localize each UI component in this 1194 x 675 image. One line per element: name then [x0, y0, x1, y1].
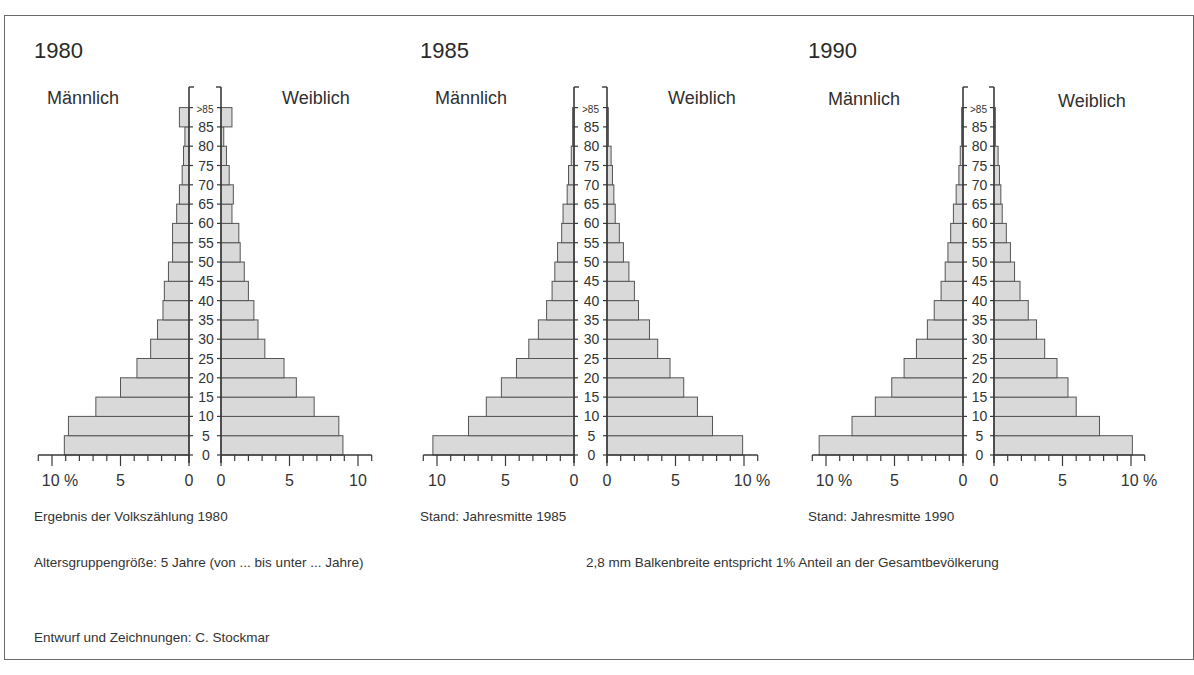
male-bar: [501, 378, 574, 397]
male-bar: [96, 397, 189, 416]
age-label: 35: [584, 312, 600, 328]
age-label: 80: [972, 138, 988, 154]
male-bar: [547, 301, 574, 320]
x-tick-label: 5: [285, 472, 294, 489]
male-bar: [529, 339, 574, 358]
female-bar: [221, 397, 314, 416]
x-tick-label: 0: [603, 472, 612, 489]
age-label: 10: [198, 408, 214, 424]
x-tick-label: 5: [116, 472, 125, 489]
female-bar: [607, 262, 629, 281]
male-bar: [555, 262, 574, 281]
female-bar: [994, 436, 1132, 455]
age-label: 15: [584, 389, 600, 405]
age-label: 40: [584, 293, 600, 309]
age-label: 55: [584, 235, 600, 251]
female-bar: [221, 185, 233, 204]
age-label: 5: [588, 428, 596, 444]
age-label: 25: [972, 351, 988, 367]
female-bar: [607, 281, 634, 300]
male-bar: [934, 301, 963, 320]
female-bar: [994, 301, 1028, 320]
male-bar: [819, 436, 963, 455]
age-label: 0: [202, 447, 210, 463]
age-label: 45: [584, 273, 600, 289]
female-bar: [221, 281, 248, 300]
male-bar: [516, 359, 574, 378]
female-bar: [221, 223, 239, 242]
age-label: 40: [198, 293, 214, 309]
age-label: 30: [584, 331, 600, 347]
female-bar: [221, 320, 258, 339]
female-bar: [994, 204, 1002, 223]
male-bar: [945, 262, 963, 281]
female-bar: [994, 339, 1045, 358]
x-tick-label: 5: [1058, 472, 1067, 489]
female-bar: [221, 146, 226, 165]
male-bar: [121, 378, 190, 397]
x-tick-label: 5: [890, 472, 899, 489]
female-bar: [221, 359, 284, 378]
age-label: 20: [584, 370, 600, 386]
age-label: 70: [198, 177, 214, 193]
age-label: 75: [584, 158, 600, 174]
male-bar: [486, 397, 574, 416]
age-label: 85: [972, 119, 988, 135]
age-label: 55: [972, 235, 988, 251]
age-label: 10: [584, 408, 600, 424]
female-bar: [994, 320, 1036, 339]
x-tick-label: 0: [990, 472, 999, 489]
female-bar: [994, 166, 999, 185]
x-tick-label: 5: [501, 472, 510, 489]
male-bar: [182, 166, 189, 185]
female-bar: [994, 359, 1057, 378]
age-label: 5: [202, 428, 210, 444]
age-label: 50: [198, 254, 214, 270]
age-label: 80: [198, 138, 214, 154]
male-bar: [179, 185, 189, 204]
female-bar: [994, 397, 1076, 416]
male-bar: [163, 301, 189, 320]
female-bar: [607, 301, 639, 320]
female-bar: [607, 339, 658, 358]
male-bar: [552, 281, 574, 300]
female-bar: [994, 243, 1010, 262]
age-label: 20: [198, 370, 214, 386]
male-bar: [68, 416, 189, 435]
male-bar: [904, 359, 963, 378]
male-bar: [469, 416, 574, 435]
male-bar: [538, 320, 574, 339]
age-label: 25: [198, 351, 214, 367]
age-label: 85: [584, 119, 600, 135]
age-label: 10: [972, 408, 988, 424]
female-bar: [607, 397, 697, 416]
female-bar: [221, 416, 339, 435]
female-bar: [221, 108, 232, 127]
age-label: 0: [976, 447, 984, 463]
x-tick-label: 0: [959, 472, 968, 489]
female-bar: [221, 243, 240, 262]
age-label: 55: [198, 235, 214, 251]
age-label: 25: [584, 351, 600, 367]
male-bar: [852, 416, 963, 435]
age-label: 45: [198, 273, 214, 289]
male-bar: [562, 223, 574, 242]
female-bar: [607, 416, 712, 435]
age-label: 20: [972, 370, 988, 386]
male-bar: [168, 262, 189, 281]
pyramid-1980: 0510152025303540455055606570758085>8510 …: [38, 87, 371, 489]
age-label: 60: [198, 215, 214, 231]
female-bar: [221, 166, 229, 185]
male-bar: [151, 339, 189, 358]
female-bar: [607, 436, 743, 455]
x-tick-label: 10: [349, 472, 367, 489]
male-bar: [567, 185, 574, 204]
age-label: 80: [584, 138, 600, 154]
male-bar: [953, 204, 963, 223]
x-tick-label: 10 %: [42, 472, 78, 489]
female-bar: [221, 301, 254, 320]
age-label: 15: [198, 389, 214, 405]
female-bar: [221, 378, 296, 397]
x-tick-label: 10 %: [816, 472, 852, 489]
